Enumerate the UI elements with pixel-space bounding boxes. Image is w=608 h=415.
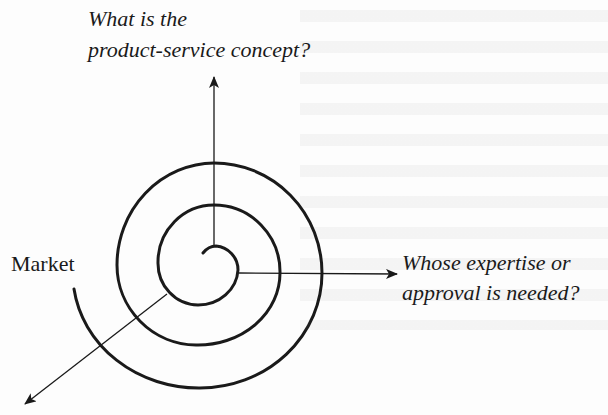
arrow-down-left: [25, 294, 167, 404]
arrow-right: [239, 273, 397, 274]
expertise-question-line1: Whose expertise or: [402, 248, 580, 278]
product-service-question-line1: What is the: [88, 3, 310, 34]
spiral-curve: [74, 163, 322, 388]
expertise-question: Whose expertise or approval is needed?: [402, 248, 580, 308]
product-service-question-line2: product-service concept?: [88, 34, 310, 65]
product-service-question: What is the product-service concept?: [88, 3, 310, 65]
market-label: Market: [11, 250, 75, 278]
expertise-question-line2: approval is needed?: [402, 278, 580, 308]
